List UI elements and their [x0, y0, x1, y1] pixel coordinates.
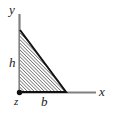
origin-axis-label: z: [14, 96, 18, 107]
geometry-figure: y x h b z: [0, 0, 116, 114]
base-dimension-label: b: [41, 95, 48, 108]
height-dimension-label: h: [9, 56, 16, 69]
y-axis-label: y: [9, 3, 15, 16]
x-axis-label: x: [99, 85, 105, 98]
